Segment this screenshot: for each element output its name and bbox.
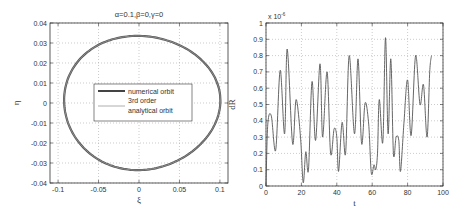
figure: -0.1-0.0500.050.10.040.030.020.010-0.01-… [0, 0, 465, 215]
y-axis-label: η [11, 100, 21, 105]
x-tick-label: 0.05 [173, 186, 187, 193]
x-tick-label: 0 [264, 189, 268, 196]
y-tick-label: 0.5 [253, 101, 263, 108]
y-tick-label: 0.3 [253, 134, 263, 141]
y-scale-label: x 10-6 [268, 12, 286, 20]
y-tick-label: 0.02 [33, 60, 47, 67]
y-tick-label: 1 [259, 20, 263, 27]
x-axis-label: t [353, 198, 356, 208]
x-tick-label: 0.1 [215, 186, 225, 193]
orbit-axes: -0.1-0.0500.050.10.040.030.020.010-0.01-… [11, 10, 228, 205]
x-tick-label: 0 [137, 186, 141, 193]
y-tick-label: 0.4 [253, 117, 263, 124]
legend-label-numerical: numerical orbit [128, 88, 174, 95]
y-tick-label: 0.01 [33, 80, 47, 87]
x-tick-label: 60 [368, 189, 376, 196]
y-tick-label: 0.04 [33, 20, 47, 27]
x-tick-label: 80 [404, 189, 412, 196]
y-tick-label: 0 [259, 183, 263, 190]
legend: numerical orbit3rd orderanalytical orbit [94, 84, 192, 121]
x-tick-label: 20 [298, 189, 306, 196]
y-tick-label: 0.03 [33, 40, 47, 47]
y-tick-label: 0.9 [253, 36, 263, 43]
x-tick-label: 100 [437, 189, 449, 196]
dr-line [266, 38, 432, 186]
x-tick-label: 40 [333, 189, 341, 196]
y-tick-label: 0.8 [253, 52, 263, 59]
y-tick-label: -0.02 [31, 140, 47, 147]
y-axis-label: dR [227, 99, 237, 110]
y-tick-label: 0.2 [253, 150, 263, 157]
legend-label-analytical-2: analytical orbit [128, 107, 173, 115]
y-tick-label: 0.7 [253, 68, 263, 75]
dr-axes: 02040608010010.90.80.70.60.50.40.30.20.1… [227, 12, 449, 208]
chart-title: α=0.1,β=0,γ=0 [115, 10, 163, 19]
x-tick-label: -0.05 [91, 186, 107, 193]
y-tick-label: -0.03 [31, 160, 47, 167]
y-tick-label: 0 [43, 100, 47, 107]
y-tick-label: 0.1 [253, 166, 263, 173]
legend-label-analytical-1: 3rd order [128, 97, 157, 104]
y-tick-label: -0.04 [31, 180, 47, 187]
y-tick-label: 0.6 [253, 85, 263, 92]
y-tick-label: -0.01 [31, 120, 47, 127]
y-scale-exponent: -6 [281, 12, 285, 17]
x-tick-label: -0.1 [52, 186, 64, 193]
x-axis-label: ξ [137, 195, 141, 205]
